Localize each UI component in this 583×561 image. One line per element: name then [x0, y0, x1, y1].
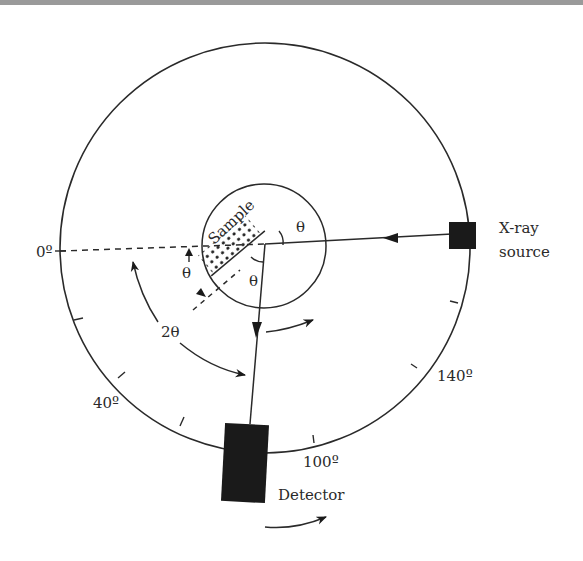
diffractometer-diagram: 0º 40º 100º 140º Sample θ θ θ 2θ X-ray s… — [0, 0, 583, 561]
label-theta-top: θ — [296, 218, 305, 236]
incident-beam — [265, 234, 452, 244]
theta-left-up-arrow-icon — [185, 248, 193, 256]
label-theta-left: θ — [182, 264, 191, 282]
two-theta-arc-upper — [133, 262, 158, 322]
incident-beam-arrow-icon — [383, 233, 398, 243]
label-xray-source-line2: source — [499, 243, 550, 261]
two-theta-arc-lower — [180, 343, 245, 375]
detector — [221, 423, 269, 503]
detector-rotation-arrow-icon — [265, 517, 326, 528]
theta-arc-center — [251, 257, 264, 262]
label-zero-deg: 0º — [36, 243, 53, 261]
label-forty-deg: 40º — [93, 394, 119, 412]
label-two-theta: 2θ — [161, 323, 180, 341]
label-detector: Detector — [278, 486, 345, 504]
label-one-forty-deg: 140º — [437, 367, 473, 385]
theta-left-down-arrow-icon — [196, 288, 206, 297]
sample-rotation-arrow-icon — [266, 320, 313, 332]
xray-source — [449, 222, 476, 249]
label-theta-center: θ — [249, 272, 258, 290]
label-hundred-deg: 100º — [303, 453, 339, 471]
label-xray-source-line1: X-ray — [499, 219, 539, 237]
